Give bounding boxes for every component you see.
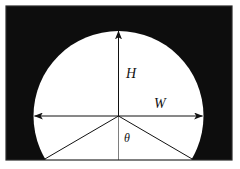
height-label: H (125, 66, 137, 81)
width-label: W (154, 96, 167, 111)
tunnel-cross-section-figure: H W θ (0, 0, 240, 169)
angle-label: θ (124, 131, 130, 145)
diagram-canvas: H W θ (0, 0, 240, 169)
